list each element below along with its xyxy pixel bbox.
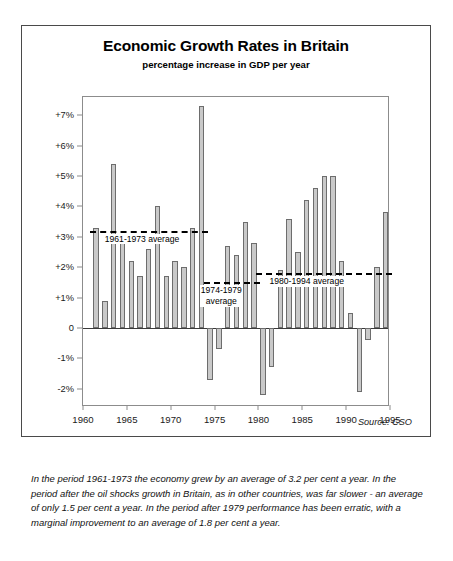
x-axis-tick-label: 1975	[204, 414, 225, 425]
y-axis-tick	[77, 327, 82, 328]
x-axis-tick	[170, 405, 171, 410]
x-axis-tick	[214, 405, 215, 410]
source-note: Source: CSO	[358, 417, 412, 427]
bar	[137, 276, 142, 328]
bar	[146, 249, 151, 328]
bar	[129, 261, 134, 328]
y-axis-tick-label: +1%	[55, 293, 74, 303]
y-axis-tick-label: +4%	[55, 201, 74, 211]
x-axis-tick	[83, 405, 84, 410]
x-axis-tick	[258, 405, 259, 410]
bar	[322, 176, 327, 328]
chart-figure: Economic Growth Rates in Britain percent…	[21, 25, 431, 437]
bar	[365, 328, 370, 340]
bar	[251, 243, 256, 328]
x-axis-tick-label: 1965	[116, 414, 137, 425]
y-axis-tick-label: +2%	[55, 262, 74, 272]
y-axis-tick	[77, 145, 82, 146]
average-1980-1994-label: 1980-1994 average	[268, 276, 345, 287]
x-axis-tick-label: 1980	[248, 414, 269, 425]
x-axis-tick-label: 1960	[72, 414, 93, 425]
y-axis-tick-label: 0	[69, 323, 74, 333]
bar	[295, 252, 300, 328]
average-1961-1973-line	[90, 231, 208, 233]
y-axis-tick	[77, 176, 82, 177]
bar	[181, 267, 186, 328]
bar	[348, 313, 353, 328]
bar	[330, 176, 335, 328]
y-axis-tick	[77, 358, 82, 359]
bar	[111, 164, 116, 328]
bar	[243, 222, 248, 328]
zero-baseline	[83, 328, 388, 329]
bar	[383, 212, 388, 327]
chart-subtitle: percentage increase in GDP per year	[22, 59, 430, 70]
bar	[172, 261, 177, 328]
plot-area: +7%+6%+5%+4%+3%+2%+1%0-1%-2%196019651970…	[82, 96, 389, 406]
y-axis-tick	[77, 206, 82, 207]
average-1974-1979-label: 1974-1979average	[200, 285, 243, 306]
bar	[155, 206, 160, 328]
chart-caption: In the period 1961-1973 the economy grew…	[31, 472, 423, 531]
bar	[313, 188, 318, 328]
y-axis-tick	[77, 297, 82, 298]
bar	[374, 267, 379, 328]
y-axis-tick-label: +5%	[55, 171, 74, 181]
bar	[93, 228, 98, 328]
average-1974-1979-line	[204, 282, 261, 284]
average-1980-1994-line	[256, 273, 392, 275]
average-1974-1979-label-line2: average	[201, 296, 242, 307]
x-axis-tick-label: 1990	[335, 414, 356, 425]
chart-title: Economic Growth Rates in Britain	[22, 37, 430, 55]
bar	[260, 328, 265, 395]
bar	[339, 261, 344, 328]
x-axis-tick-label: 1970	[160, 414, 181, 425]
bar	[357, 328, 362, 392]
bar	[207, 328, 212, 380]
bar	[120, 237, 125, 328]
y-axis-tick-label: +6%	[55, 141, 74, 151]
average-1974-1979-label-line1: 1974-1979	[201, 285, 242, 296]
y-axis-tick	[77, 388, 82, 389]
x-axis-tick	[302, 405, 303, 410]
y-axis-tick-label: -1%	[57, 353, 74, 363]
y-axis-tick	[77, 115, 82, 116]
x-axis-tick-label: 1985	[292, 414, 313, 425]
y-axis-tick-label: +7%	[55, 110, 74, 120]
bar	[102, 301, 107, 328]
y-axis-tick-label: +3%	[55, 232, 74, 242]
x-axis-tick	[346, 405, 347, 410]
bar	[164, 276, 169, 328]
x-axis-tick	[390, 405, 391, 410]
bar	[269, 328, 274, 368]
y-axis-tick-label: -2%	[57, 384, 74, 394]
bar	[190, 228, 195, 328]
y-axis-tick	[77, 267, 82, 268]
y-axis-tick	[77, 236, 82, 237]
bar	[304, 200, 309, 328]
average-1961-1973-label: 1961-1973 average	[104, 234, 181, 245]
bar	[216, 328, 221, 349]
x-axis-tick	[126, 405, 127, 410]
